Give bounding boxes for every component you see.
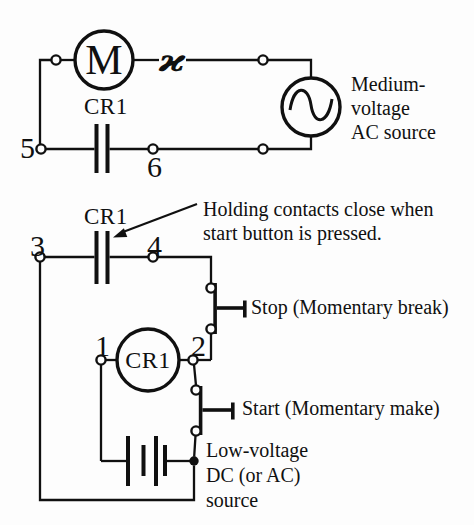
ac-top-terminal bbox=[258, 55, 267, 64]
ac-source-caption-line3: AC source bbox=[351, 120, 436, 144]
junction-dot bbox=[189, 456, 198, 465]
wire-start-to-junction bbox=[194, 436, 195, 457]
wire-to-ac-source-top bbox=[268, 60, 312, 79]
overload-symbol-icon: ϰ bbox=[145, 42, 199, 78]
terminal-3-label: 3 bbox=[30, 231, 45, 261]
motor-label: M bbox=[75, 31, 133, 89]
stop-top-terminal bbox=[206, 283, 215, 292]
ac-sine-wave-icon bbox=[290, 90, 332, 120]
ac-source-caption: Medium- voltage AC source bbox=[351, 72, 436, 144]
wire-terminal2-to-start bbox=[194, 364, 196, 385]
cr1-power-contact-left-plate bbox=[95, 124, 99, 173]
stop-bottom-terminal bbox=[206, 324, 215, 333]
start-bottom-terminal bbox=[191, 426, 200, 435]
terminal-6-label: 6 bbox=[147, 152, 162, 182]
battery-plate-short-1 bbox=[142, 445, 146, 476]
holding-contacts-annotation: Holding contacts close when start button… bbox=[203, 197, 434, 245]
start-top-terminal bbox=[191, 385, 200, 394]
terminal-1-label: 1 bbox=[95, 331, 110, 361]
cr1-holding-contact-left-plate bbox=[95, 231, 99, 284]
terminal-5-circle bbox=[36, 144, 45, 153]
battery-plate-short-2 bbox=[163, 445, 167, 476]
terminal-4-label: 4 bbox=[147, 231, 162, 261]
start-button-cap bbox=[231, 403, 235, 420]
cr1-holding-contact-label: CR1 bbox=[84, 205, 128, 228]
wire-terminal4-to-stop bbox=[158, 257, 212, 284]
dc-source-caption-line3: source bbox=[206, 488, 308, 513]
circuit-diagram-figure: M ϰ CR1 5 6 Medium- voltage AC source CR… bbox=[0, 0, 474, 525]
annotation-arrowhead-icon bbox=[113, 228, 127, 237]
annotation-arrow-line bbox=[123, 204, 197, 232]
stop-button-cap bbox=[243, 301, 247, 318]
dc-source-caption-line2: DC (or AC) bbox=[206, 463, 308, 488]
wire-motor-to-terminal5 bbox=[40, 60, 51, 145]
ac-source-caption-line1: Medium- bbox=[351, 72, 436, 96]
annotation-line2: start button is pressed. bbox=[203, 221, 434, 245]
cr1-coil-label: CR1 bbox=[117, 330, 179, 390]
dc-source-caption: Low-voltage DC (or AC) source bbox=[206, 438, 308, 513]
cr1-power-contact-right-plate bbox=[106, 124, 110, 173]
motor-left-terminal bbox=[51, 55, 60, 64]
start-button-label: Start (Momentary make) bbox=[242, 398, 440, 418]
battery-plate-long-1 bbox=[126, 436, 130, 486]
cr1-power-contact-label: CR1 bbox=[84, 95, 128, 118]
annotation-line1: Holding contacts close when bbox=[203, 197, 434, 221]
terminal-5-label: 5 bbox=[20, 133, 35, 163]
ac-bottom-terminal bbox=[258, 144, 267, 153]
ac-source-caption-line2: voltage bbox=[351, 96, 436, 120]
stop-button-label: Stop (Momentary break) bbox=[251, 297, 449, 317]
terminal-2-label: 2 bbox=[191, 331, 206, 361]
dc-source-caption-line1: Low-voltage bbox=[206, 438, 308, 463]
cr1-holding-contact-right-plate bbox=[106, 231, 110, 284]
battery-plate-long-2 bbox=[154, 436, 158, 486]
wire-ac-source-bottom bbox=[268, 136, 312, 150]
